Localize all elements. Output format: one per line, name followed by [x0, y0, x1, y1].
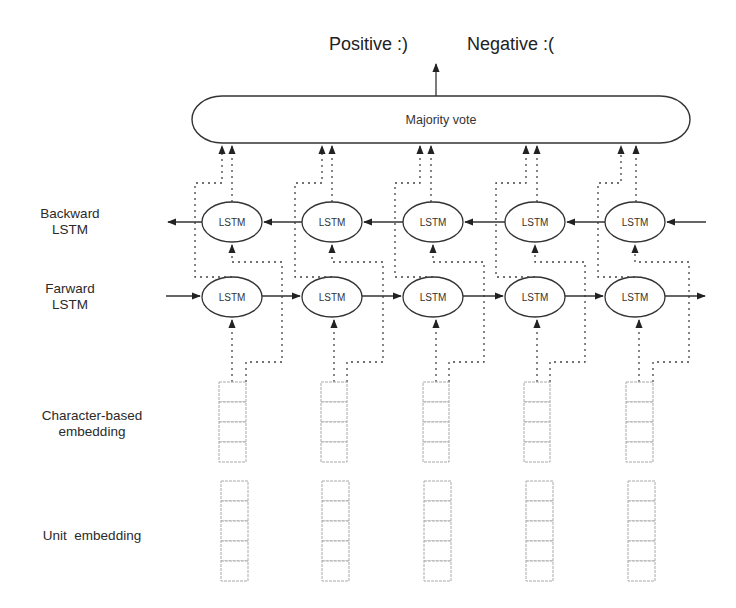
char-embedding-vector [219, 382, 246, 462]
backward-lstm-cell-label: LSTM [319, 217, 346, 228]
unit-embedding-vector [424, 481, 451, 581]
unit-embedding-vector [221, 481, 248, 581]
majority-vote-node: Majority vote [192, 96, 690, 143]
char-embedding-vector [321, 382, 347, 462]
forward-lstm-cell-label: LSTM [420, 292, 447, 303]
char-embedding-vector [423, 382, 449, 462]
unit-embedding-vector [322, 481, 349, 581]
column-5: LSTM LSTM [598, 146, 689, 581]
unit-embedding-vector [526, 481, 553, 581]
backward-lstm-cell-label: LSTM [622, 217, 649, 228]
char-embedding-vector [626, 382, 653, 462]
column-4: LSTM LSTM [496, 146, 585, 581]
forward-lstm-cell-label: LSTM [622, 292, 649, 303]
backward-lstm-cell-label: LSTM [522, 217, 549, 228]
char-embedding-vector [524, 382, 550, 462]
majority-vote-label: Majority vote [406, 113, 477, 127]
forward-lstm-cell-label: LSTM [522, 292, 549, 303]
bilstm-diagram: Majority vote LSTM LSTM LSTM LSTM [0, 0, 736, 608]
column-3: LSTM LSTM [395, 146, 484, 581]
column-1: LSTM LSTM [195, 146, 282, 581]
unit-embedding-vector [628, 481, 655, 581]
backward-lstm-cell-label: LSTM [219, 217, 246, 228]
forward-lstm-cell-label: LSTM [219, 292, 246, 303]
backward-lstm-cell-label: LSTM [420, 217, 447, 228]
forward-lstm-cell-label: LSTM [319, 292, 346, 303]
column-2: LSTM LSTM [295, 146, 383, 581]
